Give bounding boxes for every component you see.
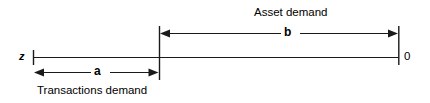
segment-a-arrowhead-left — [34, 69, 44, 77]
segment-b-arrowhead-left — [160, 30, 170, 38]
axis-left-endpoint-label: z — [19, 51, 25, 62]
transactions-demand-caption: Transactions demand — [37, 85, 147, 97]
asset-demand-caption: Asset demand — [254, 7, 328, 19]
segment-a-measure-label: a — [94, 65, 101, 77]
segment-a-arrowhead-right — [149, 69, 159, 77]
segment-b-measure-label: b — [284, 26, 291, 38]
axis-right-endpoint-label: 0 — [404, 51, 410, 63]
diagram-canvas: Asset demand b z 0 a Transactions demand — [0, 0, 430, 103]
segment-b-arrowhead-right — [388, 30, 398, 38]
